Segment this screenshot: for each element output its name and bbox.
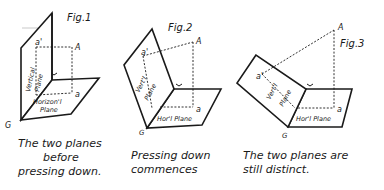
fig2-horizontal-plane-label: Hor'l Plane	[157, 115, 192, 123]
diagram-stage: Fig.1 A a' a G Vertical Plane Horizon'l …	[0, 0, 384, 190]
fig1-horizontal-plane-label-1: Horizon'l	[33, 98, 62, 106]
fig3-point-A: A	[337, 23, 343, 32]
figure-3	[237, 30, 352, 127]
fig2-point-A: A	[195, 37, 201, 46]
fig3-point-a: a	[337, 105, 342, 114]
fig1-caption-line-3: pressing down.	[18, 165, 102, 179]
fig1-caption-line-2: before	[18, 151, 102, 165]
fig2-ground-line-G: G	[139, 129, 145, 137]
fig3-caption-line-1: The two planes are	[243, 149, 348, 163]
fig3-horizontal-plane-label: Hor'l Plane	[296, 115, 331, 123]
fig3-ground-line-G: G	[282, 132, 288, 140]
fig1-caption-line-1: The two planes	[18, 137, 102, 151]
fig1-ground-line-G: G	[5, 121, 11, 130]
fig1-point-A: A	[74, 43, 80, 52]
fig2-point-a: a	[196, 105, 201, 114]
fig3-title: Fig.3	[340, 38, 364, 49]
fig3-caption: The two planes are still distinct.	[243, 149, 348, 177]
fig1-point-a: a	[75, 90, 80, 99]
fig3-caption-line-2: still distinct.	[243, 163, 348, 177]
fig3-point-a-prime: a'	[256, 72, 263, 81]
fig2-caption: Pressing down commences	[131, 149, 211, 177]
fig2-point-a-prime: a'	[141, 48, 148, 57]
fig2-caption-line-2: commences	[131, 163, 211, 177]
fig2-caption-line-1: Pressing down	[131, 149, 211, 163]
fig1-title: Fig.1	[67, 12, 91, 23]
fig1-horizontal-plane-label-2: Plane	[40, 106, 58, 114]
fig1-caption: The two planes before pressing down.	[18, 137, 102, 179]
fig2-title: Fig.2	[168, 22, 192, 33]
figure-2	[124, 29, 221, 128]
fig1-point-a-prime: a'	[35, 38, 42, 47]
